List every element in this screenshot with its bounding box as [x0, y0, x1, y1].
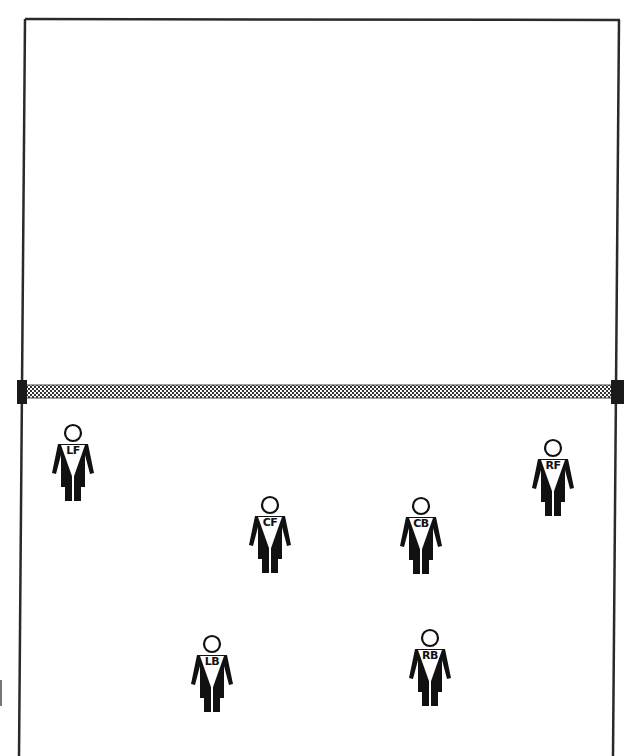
player-marker-lf[interactable]: LF — [50, 423, 96, 503]
player-figure-icon — [530, 438, 576, 518]
player-position-label: RF — [530, 459, 576, 472]
margin-mark — [0, 680, 2, 706]
player-figure-icon — [407, 628, 453, 708]
top-boundary-line — [25, 19, 620, 20]
player-marker-cf[interactable]: CF — [247, 495, 293, 575]
player-position-label: LF — [50, 444, 96, 457]
player-figure-icon — [189, 634, 235, 714]
net — [24, 385, 616, 398]
player-position-label: LB — [189, 655, 235, 668]
player-marker-rf[interactable]: RF — [530, 438, 576, 518]
player-position-label: CF — [247, 516, 293, 529]
player-marker-lb[interactable]: LB — [189, 634, 235, 714]
player-position-label: RB — [407, 649, 453, 662]
left-net-post — [17, 380, 27, 404]
player-figure-icon — [247, 495, 293, 575]
player-position-label: CB — [398, 517, 444, 530]
right-net-post — [611, 380, 624, 404]
player-figure-icon — [50, 423, 96, 503]
player-marker-cb[interactable]: CB — [398, 496, 444, 576]
player-figure-icon — [398, 496, 444, 576]
volleyball-court — [0, 0, 624, 756]
player-marker-rb[interactable]: RB — [407, 628, 453, 708]
